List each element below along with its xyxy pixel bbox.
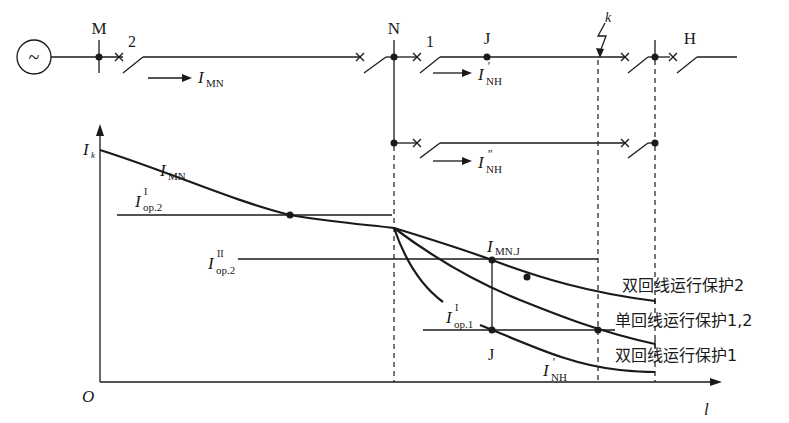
node-h-dot — [652, 54, 659, 61]
curve-imn-label: I — [159, 161, 167, 180]
fault-k-label: k — [605, 10, 612, 25]
point-j-label: J — [488, 346, 494, 363]
threshold-op1-I-label: I I op.1 — [445, 302, 473, 330]
svg-text:I: I — [197, 68, 205, 87]
curve-inh-label: I — [542, 361, 550, 380]
svg-text:MN: MN — [206, 77, 224, 89]
protection-diagram: ~ M 2 I MN N 1 J I ′ NH — [0, 0, 789, 423]
svg-text:I: I — [144, 186, 147, 197]
node-m-label: M — [91, 19, 106, 38]
legend-single-line-prot12: 单回线运行保护1,2 — [615, 311, 752, 330]
node-m-dot — [96, 54, 103, 61]
node-n-dot — [391, 54, 398, 61]
svg-text:I: I — [477, 153, 485, 172]
svg-text:″: ″ — [487, 147, 493, 161]
breaker-h-right-x-icon — [669, 53, 677, 61]
threshold-op2-I-label: I I op.2 — [134, 186, 162, 213]
svg-text:MN: MN — [168, 170, 186, 182]
fault-k-lightning-icon: k — [596, 10, 612, 58]
svg-text:k: k — [91, 150, 96, 160]
node-j-label: J — [484, 29, 491, 48]
breaker-1-label: 1 — [426, 33, 434, 50]
legend-double-line-prot1: 双回线运行保护1 — [615, 346, 737, 365]
svg-text:II: II — [217, 248, 224, 259]
node-h2-dot — [652, 140, 659, 147]
y-axis-label: I — [82, 140, 90, 159]
svg-text:MN.J: MN.J — [495, 245, 520, 257]
origin-label: O — [82, 387, 94, 406]
svg-text:op.1: op.1 — [454, 318, 473, 330]
svg-text:op.2: op.2 — [216, 264, 235, 276]
threshold-op2-II-label: I II op.2 — [207, 248, 235, 276]
current-arrow-imn: I MN — [148, 68, 224, 89]
svg-text:op.2: op.2 — [143, 201, 162, 213]
node-n-label: N — [388, 19, 400, 38]
svg-text:NH: NH — [486, 163, 502, 175]
svg-text:I: I — [134, 192, 142, 211]
svg-text:′: ′ — [552, 355, 555, 369]
y-axis-arrow-icon — [96, 124, 104, 136]
svg-text:I: I — [455, 302, 458, 313]
curve-imnj — [394, 228, 655, 301]
switch-2 — [123, 57, 143, 73]
svg-text:I: I — [445, 308, 453, 327]
generator-symbol: ~ — [29, 46, 40, 68]
breaker-2-label: 2 — [128, 33, 136, 50]
curve-imnj-label: I — [486, 237, 494, 256]
current-arrow-inh-double-prime: I ″ NH — [433, 147, 502, 175]
curve-steep — [394, 228, 443, 302]
svg-text:I: I — [207, 254, 215, 273]
node-h-label: H — [684, 29, 696, 48]
svg-text:NH: NH — [551, 371, 567, 383]
svg-text:I: I — [477, 65, 485, 84]
svg-text:′: ′ — [487, 59, 490, 73]
legend-double-line-prot2: 双回线运行保护2 — [622, 276, 744, 295]
current-arrow-inh-prime: I ′ NH — [433, 59, 502, 87]
generator: ~ — [17, 40, 51, 74]
x-axis-label: l — [704, 400, 709, 419]
svg-text:NH: NH — [486, 75, 502, 87]
x-axis-arrow-icon — [710, 378, 722, 386]
